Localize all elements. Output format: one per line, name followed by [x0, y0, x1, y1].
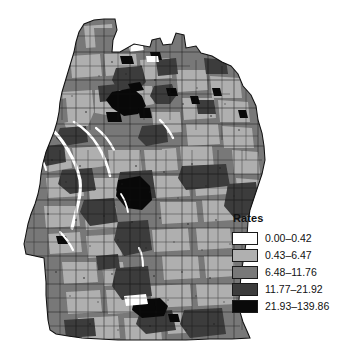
map-figure: Rates 0.00–0.42 0.43–6.47 6.48–11.76 11.…: [0, 0, 360, 348]
legend-item[interactable]: 11.77–21.92: [232, 281, 356, 297]
legend-item[interactable]: 6.48–11.76: [232, 264, 356, 280]
legend-title: Rates: [233, 212, 356, 224]
legend-label-class-5: 21.93–139.86: [265, 300, 329, 313]
legend-label-class-3: 6.48–11.76: [265, 266, 317, 279]
legend-label-class-2: 0.43–6.47: [265, 249, 312, 262]
legend-swatch-class-3: [232, 266, 258, 279]
legend-swatch-class-5: [232, 300, 258, 313]
map-legend: Rates 0.00–0.42 0.43–6.47 6.48–11.76 11.…: [232, 212, 356, 315]
legend-label-class-1: 0.00–0.42: [265, 232, 312, 245]
legend-label-class-4: 11.77–21.92: [265, 283, 323, 296]
legend-item[interactable]: 0.43–6.47: [232, 247, 356, 263]
legend-item[interactable]: 21.93–139.86: [232, 298, 356, 314]
legend-swatch-class-2: [232, 249, 258, 262]
legend-swatch-class-1: [232, 232, 258, 245]
legend-item[interactable]: 0.00–0.42: [232, 230, 356, 246]
legend-swatch-class-4: [232, 283, 258, 296]
